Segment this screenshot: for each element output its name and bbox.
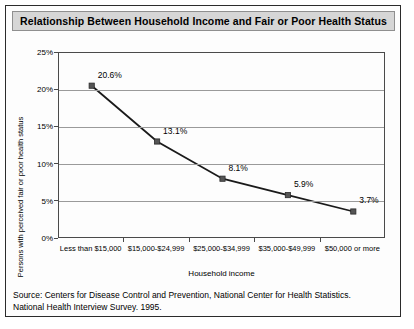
x-tick-mark [123, 238, 124, 242]
y-tick-label: 20% [13, 85, 53, 94]
data-point-label: 20.6% [98, 70, 122, 80]
line-series [59, 53, 386, 239]
chart-figure: Relationship Between Household Income an… [0, 0, 414, 329]
data-point-marker [285, 193, 290, 198]
gridline [59, 164, 384, 165]
x-tick-mark [254, 238, 255, 242]
y-tick-mark [54, 200, 58, 201]
y-tick-label: 5% [13, 196, 53, 205]
y-tick-mark [54, 238, 58, 239]
data-point-marker [351, 209, 356, 214]
data-point-label: 5.9% [294, 179, 313, 189]
x-tick-label: $15,000-$24,999 [128, 244, 185, 253]
plot-area [58, 52, 385, 238]
x-tick-mark [320, 238, 321, 242]
data-point-label: 8.1% [229, 163, 248, 173]
data-point-marker [220, 176, 225, 181]
source-line-2: National Health Interview Survey. 1995. [13, 301, 393, 313]
y-tick-label: 10% [13, 159, 53, 168]
data-point-label: 13.1% [163, 126, 187, 136]
x-axis-title: Household income [58, 269, 385, 278]
gridline [59, 90, 384, 91]
x-tick-label: $50,000 or more [325, 244, 380, 253]
source-line-1: Source: Centers for Disease Control and … [13, 289, 393, 301]
data-point-marker [89, 83, 94, 88]
x-tick-mark [189, 238, 190, 242]
source-note: Source: Centers for Disease Control and … [13, 289, 393, 313]
data-point-label: 3.7% [359, 195, 378, 205]
y-tick-label: 15% [13, 122, 53, 131]
chart-title-bar: Relationship Between Household Income an… [12, 11, 395, 31]
series-line [92, 86, 354, 212]
y-tick-label: 0% [13, 234, 53, 243]
y-tick-mark [54, 126, 58, 127]
data-point-marker [155, 139, 160, 144]
y-tick-mark [54, 163, 58, 164]
y-tick-mark [54, 89, 58, 90]
gridline [59, 201, 384, 202]
y-tick-label: 25% [13, 48, 53, 57]
y-tick-mark [54, 52, 58, 53]
x-tick-label: $25,000-$34,999 [193, 244, 250, 253]
gridline [59, 127, 384, 128]
page-title: Relationship Between Household Income an… [20, 15, 387, 27]
x-tick-label: $35,000-$49,999 [259, 244, 316, 253]
x-tick-label: Less than $15,000 [60, 244, 122, 253]
